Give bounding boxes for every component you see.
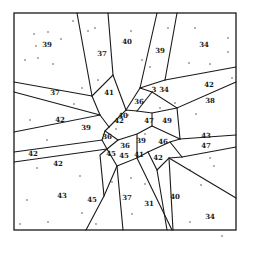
cell-label: 34 bbox=[159, 85, 169, 94]
cell-label: 38 bbox=[205, 96, 215, 105]
cell-label: 45 bbox=[87, 195, 97, 204]
cell-label: 42 bbox=[28, 149, 38, 158]
cell-label: 47 bbox=[144, 116, 154, 125]
cell-label: 43 bbox=[201, 131, 211, 140]
cell-label: 42 bbox=[53, 159, 63, 168]
cell-label: 46 bbox=[158, 137, 168, 146]
scatter-points bbox=[19, 20, 232, 236]
cell-label: 37 bbox=[50, 88, 60, 97]
cell-label: 41 bbox=[134, 150, 144, 159]
cell-label: 3 bbox=[152, 85, 157, 94]
cell-label: 34 bbox=[205, 212, 215, 221]
cell-label: 47 bbox=[201, 141, 211, 150]
cell-labels: 3937403934374133442423638404239474936363… bbox=[28, 37, 215, 221]
cell-label: 37 bbox=[97, 49, 107, 58]
cell-label: 41 bbox=[104, 88, 114, 97]
cell-label: 42 bbox=[114, 116, 124, 125]
cell-label: 45 bbox=[106, 149, 116, 158]
cell-label: 42 bbox=[55, 115, 65, 124]
cell-label: 36 bbox=[134, 97, 144, 106]
cell-label: 40 bbox=[170, 192, 180, 201]
cell-label: 42 bbox=[204, 80, 214, 89]
cell-label: 39 bbox=[81, 123, 91, 132]
cell-label: 43 bbox=[57, 191, 67, 200]
cell-label: 36 bbox=[120, 141, 130, 150]
cell-label: 31 bbox=[144, 199, 154, 208]
cell-label: 39 bbox=[136, 136, 146, 145]
cell-label: 49 bbox=[162, 116, 172, 125]
cell-label: 36 bbox=[102, 132, 112, 141]
cell-label: 39 bbox=[155, 46, 165, 55]
voronoi-diagram: 3937403934374133442423638404239474936363… bbox=[0, 0, 253, 255]
cell-label: 45 bbox=[119, 151, 129, 160]
cell-label: 42 bbox=[153, 153, 163, 162]
cell-label: 34 bbox=[199, 40, 209, 49]
cell-label: 37 bbox=[122, 193, 132, 202]
cell-label: 40 bbox=[122, 37, 132, 46]
cell-label: 39 bbox=[42, 40, 52, 49]
